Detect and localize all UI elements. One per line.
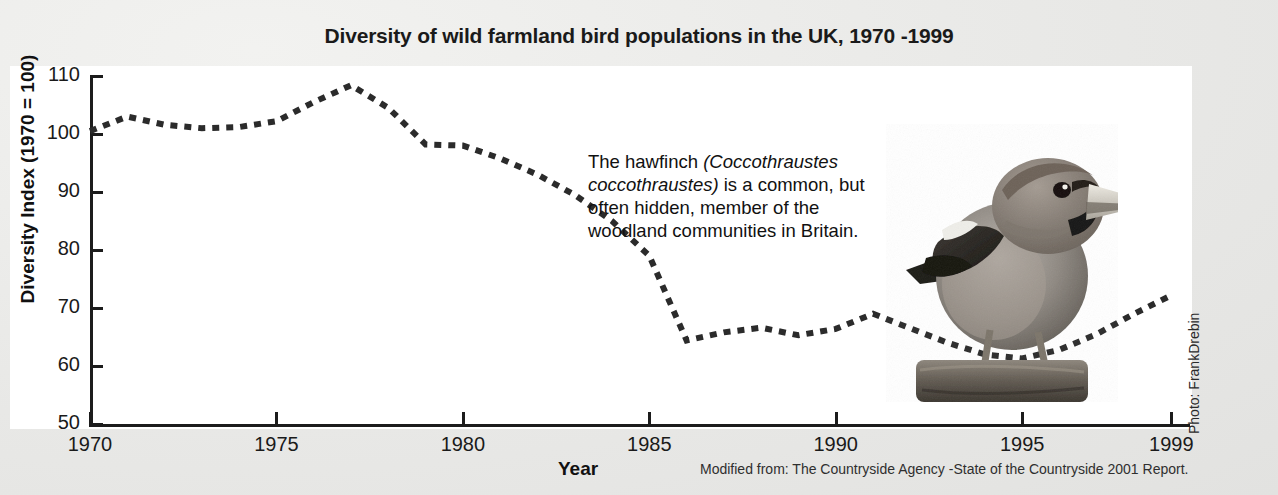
y-axis-title: Diversity Index (1970 = 100) bbox=[17, 29, 39, 329]
x-tick-label-1980: 1980 bbox=[403, 433, 523, 456]
x-tick-label-1999: 1999 bbox=[1111, 433, 1231, 456]
chart-title: Diversity of wild farmland bird populati… bbox=[0, 24, 1278, 48]
x-tick-label-1990: 1990 bbox=[776, 433, 896, 456]
y-tick-label-50: 50 bbox=[18, 411, 80, 434]
chart-panel: The hawfinch (Coccothraustes coccothraus… bbox=[10, 66, 1192, 429]
chart-page: Diversity of wild farmland bird populati… bbox=[0, 0, 1278, 495]
annotation-text: The hawfinch (Coccothraustes coccothraus… bbox=[588, 150, 888, 242]
x-axis-title: Year bbox=[558, 458, 598, 480]
photo-credit: Photo: FrankDrebin bbox=[1186, 313, 1202, 434]
x-tick-label-1975: 1975 bbox=[216, 433, 336, 456]
source-note: Modified from: The Countryside Agency -S… bbox=[700, 461, 1188, 477]
x-tick-label-1970: 1970 bbox=[30, 433, 150, 456]
x-tick-label-1985: 1985 bbox=[589, 433, 709, 456]
x-tick-label-1995: 1995 bbox=[962, 433, 1082, 456]
annotation-part-1: The hawfinch bbox=[588, 151, 703, 172]
hawfinch-photo bbox=[886, 124, 1118, 402]
y-tick-label-60: 60 bbox=[18, 353, 80, 376]
